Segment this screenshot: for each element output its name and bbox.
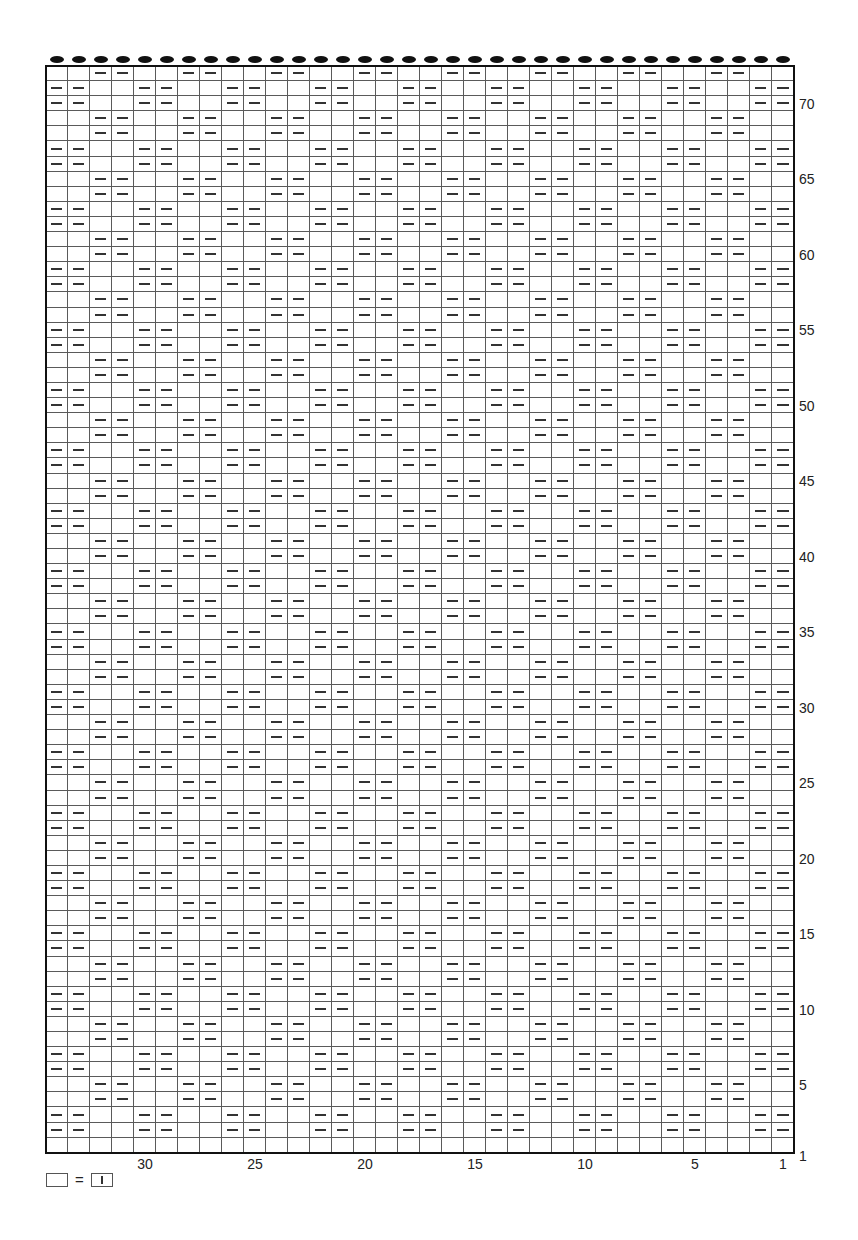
knit-stitch-cell [662,609,684,624]
purl-stitch-cell [684,1047,706,1062]
knit-stitch-cell [332,730,354,745]
knit-stitch-cell [728,81,750,96]
knit-stitch-cell [662,1032,684,1047]
knit-stitch-cell [178,821,200,836]
purl-stitch-cell [596,1107,618,1122]
purl-stitch-cell [464,126,486,141]
knit-stitch-cell [772,549,794,564]
knit-stitch-cell [46,896,68,911]
purl-stitch-cell [354,775,376,790]
knit-stitch-cell [332,232,354,247]
purl-stitch-cell [772,685,794,700]
purl-stitch-cell [420,624,442,639]
purl-stitch-cell [662,262,684,277]
knit-stitch-cell [420,609,442,624]
knit-stitch-cell [618,338,640,353]
purl-stitch-cell [508,81,530,96]
knit-stitch-cell [200,217,222,232]
knit-stitch-cell [640,338,662,353]
knit-stitch-cell [178,458,200,473]
knit-stitch-cell [310,1138,332,1153]
purl-stitch-cell [222,881,244,896]
purl-stitch-cell [574,157,596,172]
purl-stitch-cell [90,957,112,972]
purl-stitch-cell [442,609,464,624]
knit-stitch-cell [90,383,112,398]
knit-stitch-cell [178,1123,200,1138]
knit-stitch-cell [706,217,728,232]
knit-stitch-cell [398,730,420,745]
purl-stitch-cell [574,1002,596,1017]
knit-stitch-cell [354,323,376,338]
purl-stitch-cell [684,383,706,398]
knit-stitch-cell [376,821,398,836]
purl-stitch-cell [552,655,574,670]
purl-stitch-cell [442,594,464,609]
purl-stitch-cell [684,821,706,836]
knit-stitch-cell [640,202,662,217]
knit-stitch-cell [464,202,486,217]
purl-stitch-cell [156,202,178,217]
purl-stitch-cell [332,398,354,413]
knit-stitch-cell [134,1017,156,1032]
purl-stitch-cell [156,881,178,896]
purl-stitch-cell [574,881,596,896]
purl-stitch-cell [772,504,794,519]
knit-stitch-cell [288,1047,310,1062]
purl-stitch-cell [332,926,354,941]
knit-stitch-cell [46,655,68,670]
purl-stitch-cell [46,1002,68,1017]
purl-stitch-cell [376,474,398,489]
knit-stitch-cell [728,262,750,277]
knit-stitch-cell [662,474,684,489]
knit-stitch-cell [464,1062,486,1077]
purl-stitch-cell [750,398,772,413]
purl-stitch-cell [156,1002,178,1017]
knit-stitch-cell [178,685,200,700]
purl-stitch-cell [662,1123,684,1138]
knit-stitch-cell [706,745,728,760]
knit-stitch-cell [112,1123,134,1138]
purl-stitch-cell [288,308,310,323]
knit-stitch-cell [354,745,376,760]
purl-stitch-cell [420,323,442,338]
purl-stitch-cell [464,836,486,851]
purl-stitch-cell [46,323,68,338]
stitch-marker-dot [204,56,218,63]
knit-stitch-cell [530,745,552,760]
purl-stitch-cell [134,941,156,956]
knit-stitch-cell [310,413,332,428]
purl-stitch-cell [222,866,244,881]
knit-stitch-cell [376,745,398,760]
purl-stitch-cell [464,489,486,504]
knit-stitch-cell [266,624,288,639]
purl-stitch-cell [90,836,112,851]
knit-stitch-cell [288,579,310,594]
purl-stitch-cell [684,1107,706,1122]
purl-stitch-cell [486,1123,508,1138]
row-number-label: 65 [799,172,815,186]
purl-stitch-cell [662,96,684,111]
knit-stitch-cell [222,1092,244,1107]
purl-stitch-cell [68,700,90,715]
knit-stitch-cell [640,1002,662,1017]
purl-stitch-cell [618,66,640,81]
purl-stitch-cell [750,941,772,956]
purl-stitch-cell [728,896,750,911]
purl-stitch-cell [156,866,178,881]
knit-stitch-cell [90,700,112,715]
knit-stitch-cell [376,700,398,715]
knit-stitch-cell [354,1123,376,1138]
knit-stitch-cell [266,760,288,775]
purl-stitch-cell [244,866,266,881]
purl-stitch-cell [200,1017,222,1032]
purl-stitch-cell [310,881,332,896]
stitch-marker-dot [556,56,570,63]
purl-stitch-cell [442,111,464,126]
purl-stitch-cell [90,1077,112,1092]
purl-stitch-cell [772,1002,794,1017]
purl-stitch-cell [134,202,156,217]
knit-stitch-cell [662,730,684,745]
purl-stitch-cell [464,775,486,790]
purl-stitch-cell [486,217,508,232]
